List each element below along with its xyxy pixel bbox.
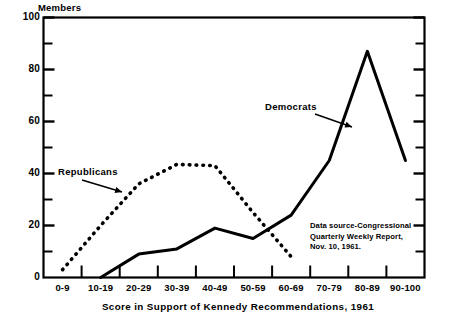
- y-tick-label-20: 20: [10, 219, 40, 230]
- y-tick-label-0: 0: [10, 271, 40, 282]
- source-note-line-1: Data source-Congressional: [310, 221, 411, 232]
- source-note-line-3: Nov. 10, 1961.: [310, 242, 411, 253]
- y-tick-label-100: 100: [10, 11, 40, 22]
- x-tick-label-90-100: 90-100: [381, 282, 429, 293]
- democrats-series-label: Democrats: [265, 101, 317, 112]
- chart-plot-svg: [0, 0, 452, 320]
- chart-container: Members 100 80 60 40 20 0 0-910-1920-293…: [0, 0, 452, 320]
- x-axis-title: Score in Support of Kennedy Recommendati…: [12, 301, 452, 312]
- source-note: Data source-Congressional Quarterly Week…: [310, 221, 411, 253]
- y-tick-label-80: 80: [10, 63, 40, 74]
- y-tick-label-60: 60: [10, 115, 40, 126]
- republicans-series-label: Republicans: [58, 166, 118, 177]
- y-tick-label-40: 40: [10, 167, 40, 178]
- y-axis-unit-label: Members: [38, 2, 81, 13]
- source-note-line-2: Quarterly Weekly Report,: [310, 232, 411, 243]
